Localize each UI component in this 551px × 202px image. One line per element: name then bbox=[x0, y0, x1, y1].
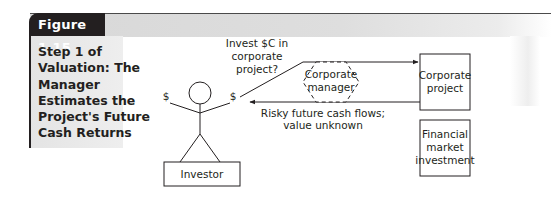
financial-market-label-line: market bbox=[426, 141, 463, 153]
manager-label-line: Corporate bbox=[305, 68, 358, 80]
dollar-right: $ bbox=[230, 90, 237, 102]
financial-market-label-line: investment bbox=[415, 154, 474, 166]
corporate-project-label-line: Corporate bbox=[419, 69, 472, 81]
invest-question-line: Invest $C in bbox=[226, 37, 288, 49]
head-icon bbox=[189, 82, 211, 104]
cash-flows-label-line: Risky future cash flows; bbox=[261, 107, 385, 119]
financial-market-label-line: Financial bbox=[422, 128, 468, 140]
investor-label: Investor bbox=[181, 168, 224, 180]
corporate-project-label-line: project bbox=[427, 82, 463, 94]
invest-question-line: project? bbox=[236, 63, 278, 75]
valuation-diagram: Investor $ $ Invest $C in corporate proj… bbox=[0, 0, 551, 202]
cash-flows-label-line: value unknown bbox=[283, 119, 363, 131]
investor-stick-figure bbox=[170, 82, 230, 162]
manager-label-line: manager bbox=[307, 81, 355, 93]
invest-question-line: corporate bbox=[232, 50, 283, 62]
dollar-left: $ bbox=[163, 90, 170, 102]
